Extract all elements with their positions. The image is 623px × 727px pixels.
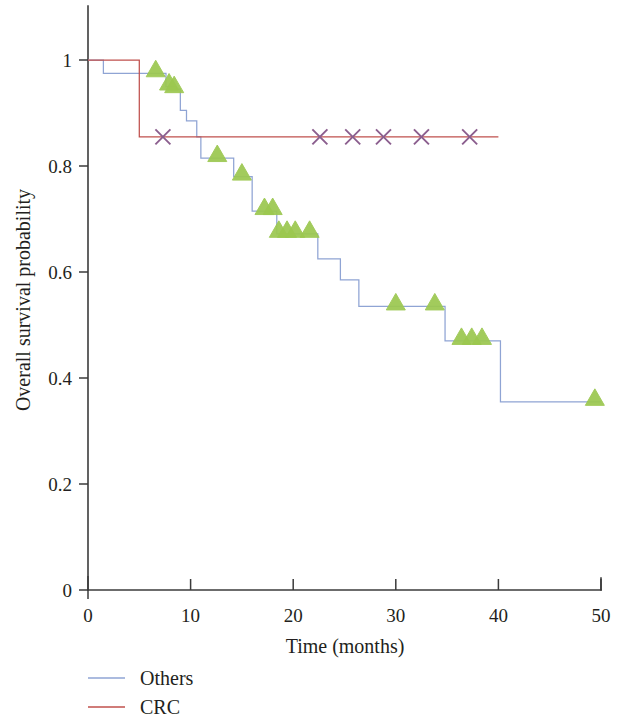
y-axis-title: Overall survival probability bbox=[12, 189, 35, 411]
x-tick-label: 0 bbox=[83, 605, 93, 626]
km-curve-others bbox=[88, 60, 601, 402]
censor-marker-triangle bbox=[386, 293, 405, 310]
series-curves bbox=[88, 60, 601, 402]
y-axis-ticks: 00.20.40.60.81 bbox=[48, 50, 88, 601]
x-tick-label: 10 bbox=[181, 605, 200, 626]
censor-marker-triangle bbox=[300, 221, 319, 238]
x-axis-ticks: 01020304050 bbox=[83, 576, 610, 626]
y-tick-label: 0.4 bbox=[48, 368, 72, 389]
x-tick-label: 30 bbox=[386, 605, 405, 626]
censor-marker-triangle bbox=[232, 164, 251, 181]
y-tick-label: 0.2 bbox=[48, 474, 72, 495]
x-tick-label: 50 bbox=[592, 605, 611, 626]
kaplan-meier-figure: 00.20.40.60.81 01020304050 Time (months)… bbox=[0, 0, 623, 727]
censor-markers bbox=[146, 60, 604, 405]
y-tick-label: 0.8 bbox=[48, 156, 72, 177]
survival-plot: 00.20.40.60.81 01020304050 Time (months)… bbox=[0, 0, 623, 727]
x-tick-label: 20 bbox=[284, 605, 303, 626]
y-tick-label: 1 bbox=[63, 50, 73, 71]
x-tick-label: 40 bbox=[489, 605, 508, 626]
legend-label-crc: CRC bbox=[140, 696, 180, 718]
censor-marker-triangle bbox=[425, 293, 444, 310]
censor-marker-triangle bbox=[146, 60, 165, 77]
axes bbox=[88, 6, 601, 590]
x-axis-title: Time (months) bbox=[286, 635, 405, 658]
legend: OthersCRC bbox=[88, 667, 194, 718]
censor-marker-triangle bbox=[208, 145, 227, 162]
legend-label-others: Others bbox=[140, 667, 194, 689]
y-tick-label: 0 bbox=[63, 580, 73, 601]
censor-marker-triangle bbox=[585, 389, 604, 406]
y-tick-label: 0.6 bbox=[48, 262, 72, 283]
